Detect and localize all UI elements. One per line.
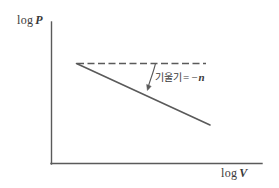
y-axis-label: logP	[17, 13, 43, 28]
slope-annotation-text: 기울기	[155, 72, 182, 83]
plot-canvas	[0, 0, 279, 188]
slope-pointer-arrowhead	[147, 84, 152, 90]
x-axis-label-prefix: log	[221, 166, 237, 180]
slope-annotation-variable: n	[198, 71, 204, 83]
slope-annotation: 기울기=−n	[155, 69, 205, 84]
y-axis-label-prefix: log	[17, 13, 33, 27]
y-axis-label-variable: P	[33, 13, 43, 27]
slope-annotation-equals: =	[182, 71, 190, 83]
log-log-plot-figure: logP logV 기울기=−n	[0, 0, 279, 188]
x-axis-label-variable: V	[237, 166, 247, 180]
x-axis-label: logV	[221, 166, 248, 181]
